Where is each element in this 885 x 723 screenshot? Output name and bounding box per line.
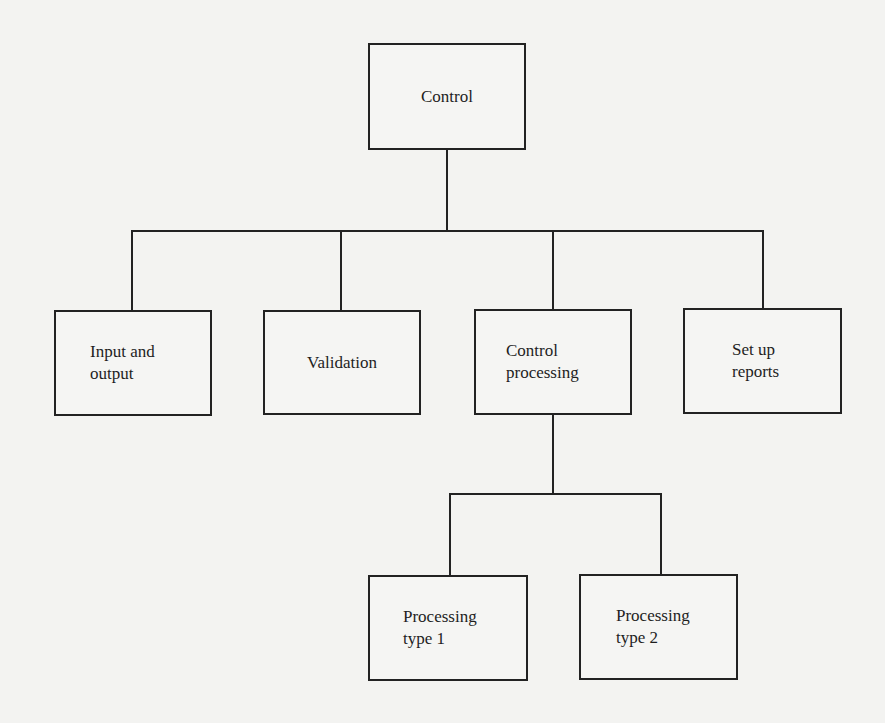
connector-to-set-up-reports bbox=[762, 230, 764, 309]
node-processing-type-1: Processing type 1 bbox=[368, 575, 528, 681]
connector-to-validation bbox=[340, 230, 342, 311]
node-input-and-output: Input and output bbox=[54, 310, 212, 416]
connector-to-processing-type-1 bbox=[449, 493, 451, 576]
node-validation: Validation bbox=[263, 310, 421, 415]
node-processing-type-2: Processing type 2 bbox=[579, 574, 738, 680]
connector-control-processing-down bbox=[552, 414, 554, 495]
connector-to-input-output bbox=[131, 230, 133, 311]
node-control-processing: Control processing bbox=[474, 309, 632, 415]
node-label: Control processing bbox=[506, 340, 579, 384]
connector-level2-bus bbox=[449, 493, 662, 495]
node-control: Control bbox=[368, 43, 526, 150]
node-set-up-reports: Set up reports bbox=[683, 308, 842, 414]
connector-to-control-processing bbox=[552, 230, 554, 310]
connector-to-processing-type-2 bbox=[660, 493, 662, 575]
node-label: Input and output bbox=[90, 341, 155, 385]
node-label: Processing type 2 bbox=[616, 605, 690, 649]
node-label: Set up reports bbox=[732, 339, 779, 383]
node-label: Control bbox=[370, 86, 524, 108]
connector-level1-bus bbox=[131, 230, 764, 232]
node-label: Validation bbox=[265, 352, 419, 374]
node-label: Processing type 1 bbox=[403, 606, 477, 650]
connector-root-down bbox=[446, 148, 448, 232]
